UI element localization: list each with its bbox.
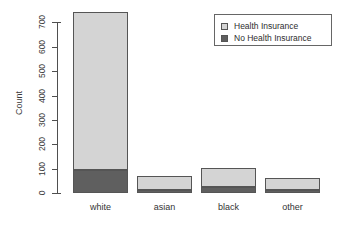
y-tick-label-700: 700: [34, 17, 50, 27]
y-tick-label-text: 700: [37, 15, 47, 29]
y-tick-label-400: 400: [34, 91, 50, 101]
stacked-bar-chart: 0 100 200 300 400 500 600 700 Count: [0, 0, 341, 232]
y-axis-top-cap: [57, 22, 61, 23]
y-tick-400: [52, 96, 57, 97]
y-tick-500: [52, 71, 57, 72]
bar-asian[interactable]: [137, 176, 192, 193]
legend-item-no-health-insurance[interactable]: No Health Insurance: [221, 32, 312, 44]
y-tick-label-text: 600: [37, 40, 47, 54]
y-tick-600: [52, 47, 57, 48]
y-tick-label-600: 600: [34, 42, 50, 52]
legend: Health Insurance No Health Insurance: [214, 14, 332, 46]
legend-label-health-insurance: Health Insurance: [234, 21, 298, 31]
y-axis-title: Count: [12, 96, 26, 110]
x-tick-label-asian: asian: [137, 202, 192, 212]
y-tick-label-text: 500: [37, 64, 47, 78]
plot-area: 0 100 200 300 400 500 600 700 Count: [0, 0, 341, 232]
x-tick-label-white: white: [73, 202, 128, 212]
bar-segment-black-insured[interactable]: [201, 168, 256, 187]
legend-item-health-insurance[interactable]: Health Insurance: [221, 20, 298, 32]
bar-segment-white-uninsured[interactable]: [73, 170, 128, 193]
x-tick-label-other: other: [265, 202, 320, 212]
y-tick-label-0: 0: [34, 188, 50, 198]
bar-segment-black-uninsured[interactable]: [201, 187, 256, 193]
y-axis-line: [57, 22, 58, 194]
legend-swatch-no-health-insurance-icon: [221, 35, 228, 42]
bar-segment-other-uninsured[interactable]: [265, 190, 320, 193]
bar-segment-asian-insured[interactable]: [137, 176, 192, 190]
y-tick-label-text: 100: [37, 162, 47, 176]
y-tick-label-300: 300: [34, 115, 50, 125]
bar-segment-asian-uninsured[interactable]: [137, 190, 192, 193]
y-tick-label-text: 200: [37, 137, 47, 151]
y-tick-label-100: 100: [34, 164, 50, 174]
y-tick-300: [52, 120, 57, 121]
y-tick-label-500: 500: [34, 66, 50, 76]
y-axis-title-text: Count: [14, 91, 24, 115]
bar-segment-other-insured[interactable]: [265, 178, 320, 190]
x-tick-label-black: black: [201, 202, 256, 212]
y-tick-0: [52, 193, 57, 194]
y-tick-100: [52, 169, 57, 170]
bar-segment-white-insured[interactable]: [73, 12, 128, 170]
y-tick-label-text: 0: [37, 191, 47, 196]
y-axis-bottom-cap: [57, 193, 61, 194]
bar-white[interactable]: [73, 12, 128, 193]
bar-black[interactable]: [201, 168, 256, 193]
y-tick-label-text: 300: [37, 113, 47, 127]
legend-label-no-health-insurance: No Health Insurance: [234, 33, 312, 43]
y-tick-label-200: 200: [34, 139, 50, 149]
legend-swatch-health-insurance-icon: [221, 23, 228, 30]
y-tick-700: [52, 22, 57, 23]
y-tick-label-text: 400: [37, 89, 47, 103]
y-tick-200: [52, 144, 57, 145]
bar-other[interactable]: [265, 178, 320, 193]
